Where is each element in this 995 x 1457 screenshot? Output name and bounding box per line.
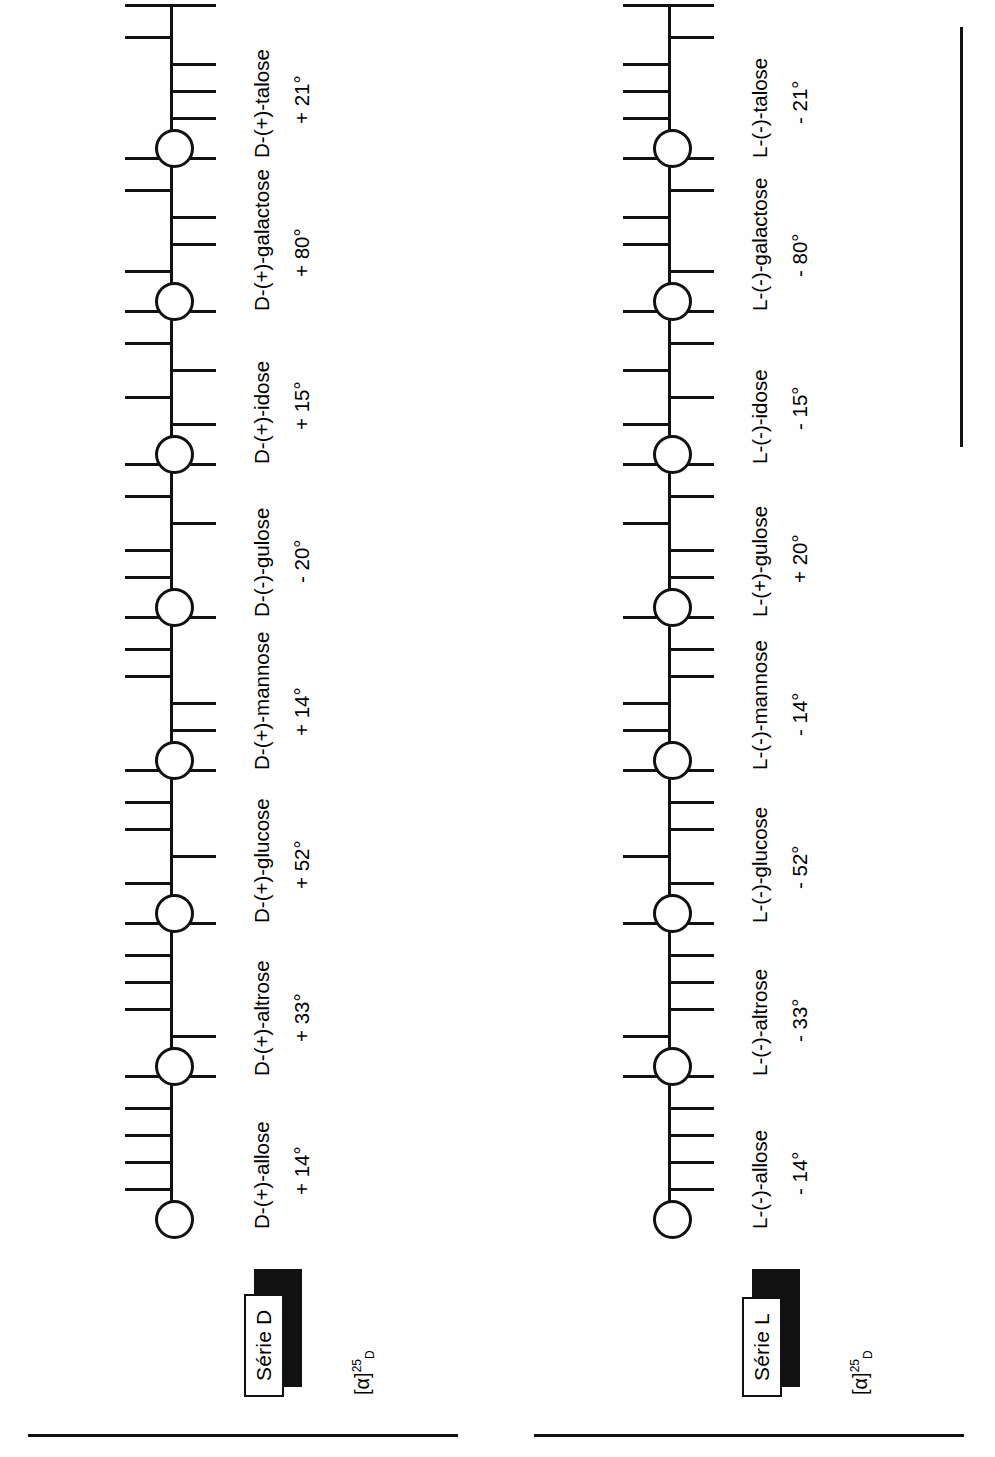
sugar-name: D-(+)-mannose	[250, 632, 274, 770]
sugar-name: L-(+)-gulose	[748, 506, 772, 617]
aldehyde-circle	[155, 741, 194, 780]
carbon-backbone	[668, 1075, 671, 1215]
hydroxyl-bond	[125, 648, 171, 651]
hydroxyl-bond	[623, 243, 669, 246]
optical-rotation-value: + 52°	[290, 840, 314, 889]
hydroxyl-bond	[125, 189, 171, 192]
optical-rotation-value: - 14°	[788, 692, 812, 736]
rotated-canvas: Série D[α]25DD-(+)-allose+ 14°D-(+)-altr…	[0, 0, 995, 1457]
fischer-projection	[594, 908, 744, 1076]
series-badge: Série L	[742, 1297, 782, 1397]
carbon-backbone	[170, 310, 173, 450]
hydroxyl-bond	[668, 1161, 714, 1164]
sugar-name: L-(-)-mannose	[748, 640, 772, 770]
sugar-name: D-(-)-gulose	[250, 508, 274, 617]
hydroxyl-bond	[170, 855, 216, 858]
sugar-label-group: D-(+)-idose+ 15°	[250, 296, 480, 464]
aldehyde-circle	[155, 1200, 194, 1239]
hydroxyl-bond	[623, 522, 669, 525]
sugar-structure: D-(+)-allose+ 14°	[0, 1061, 497, 1229]
sugar-label-group: L-(+)-gulose+ 20°	[748, 449, 978, 617]
hydroxyl-bond	[668, 495, 714, 498]
carbon-backbone	[170, 157, 173, 297]
sugar-structure: D-(-)-gulose- 20°	[0, 449, 497, 617]
optical-rotation-value: + 14°	[290, 687, 314, 736]
fischer-projection	[96, 1061, 246, 1229]
hydroxyl-bond	[125, 1008, 171, 1011]
hydroxyl-bond	[668, 828, 714, 831]
sugar-label-group: L-(-)-talose- 21°	[748, 0, 978, 158]
aldehyde-circle	[653, 741, 692, 780]
fischer-projection	[594, 143, 744, 311]
aldehyde-circle	[155, 435, 194, 474]
hydroxyl-bond	[125, 549, 171, 552]
sugar-name: D-(+)-altrose	[250, 960, 274, 1076]
figure-page: Série D[α]25DD-(+)-allose+ 14°D-(+)-altr…	[0, 0, 995, 1457]
carbon-backbone	[668, 4, 671, 144]
hydroxyl-bond	[623, 1035, 669, 1038]
hydroxyl-bond	[668, 801, 714, 804]
hydroxyl-bond	[668, 648, 714, 651]
hydroxyl-bond	[125, 396, 171, 399]
carbon-backbone	[170, 616, 173, 756]
sugar-structure: D-(+)-galactose+ 80°	[0, 143, 497, 311]
hydroxyl-bond	[125, 981, 171, 984]
aldehyde-circle	[653, 129, 692, 168]
aldehyde-circle	[155, 1047, 194, 1086]
sugar-label-group: L-(-)-mannose- 14°	[748, 602, 978, 770]
fischer-projection	[594, 0, 744, 158]
fischer-projection	[96, 296, 246, 464]
aldehyde-circle	[653, 1047, 692, 1086]
optical-rotation-value: - 20°	[290, 539, 314, 583]
hydroxyl-bond	[668, 1107, 714, 1110]
sugar-label-group: D-(+)-allose+ 14°	[250, 1061, 480, 1229]
optical-rotation-value: + 20°	[788, 534, 812, 583]
hydroxyl-bond	[125, 1134, 171, 1137]
aldehyde-circle	[653, 435, 692, 474]
sugar-structure: D-(+)-mannose+ 14°	[0, 602, 497, 770]
hydroxyl-bond	[125, 675, 171, 678]
hydroxyl-bond	[668, 981, 714, 984]
hydroxyl-bond	[170, 216, 216, 219]
sugar-structure: D-(+)-altrose+ 33°	[0, 908, 497, 1076]
hydroxyl-bond	[170, 1035, 216, 1038]
fischer-projection	[96, 755, 246, 923]
hydroxyl-bond	[170, 729, 216, 732]
aldehyde-circle	[155, 129, 194, 168]
hydroxyl-bond	[623, 117, 669, 120]
sugar-structure: L-(+)-gulose+ 20°	[498, 449, 995, 617]
hydroxyl-bond	[170, 369, 216, 372]
sugar-name: L-(-)-altrose	[748, 969, 772, 1076]
hydroxyl-bond	[668, 549, 714, 552]
carbon-backbone	[170, 1075, 173, 1215]
specific-rotation-symbol: [α]25D	[350, 1350, 377, 1395]
optical-rotation-value: - 80°	[788, 233, 812, 277]
aldehyde-circle	[653, 588, 692, 627]
hydroxyl-bond	[668, 396, 714, 399]
sugar-structure: D-(+)-talose+ 21°	[0, 0, 497, 158]
hydroxyl-bond	[623, 63, 669, 66]
hydroxyl-bond	[125, 36, 171, 39]
optical-rotation-value: + 14°	[290, 1146, 314, 1195]
series-d: Série D[α]25DD-(+)-allose+ 14°D-(+)-altr…	[0, 0, 497, 1457]
sugar-name: L-(-)-galactose	[748, 178, 772, 311]
sugar-label-group: L-(-)-altrose- 33°	[748, 908, 978, 1076]
specific-rotation-symbol: [α]25D	[848, 1350, 875, 1395]
carbon-backbone	[668, 769, 671, 909]
hydroxyl-bond	[125, 1188, 171, 1191]
hydroxyl-bond	[668, 675, 714, 678]
sugar-label-group: L-(-)-galactose- 80°	[748, 143, 978, 311]
hydroxyl-bond	[668, 342, 714, 345]
sugar-label-group: D-(+)-talose+ 21°	[250, 0, 480, 158]
optical-rotation-value: + 33°	[290, 993, 314, 1042]
hydroxyl-bond	[668, 882, 714, 885]
hydroxyl-bond	[623, 702, 669, 705]
hydroxyl-bond	[623, 729, 669, 732]
hydroxyl-bond	[668, 954, 714, 957]
series-l: Série L[α]25DL-(-)-allose- 14°L-(-)-altr…	[498, 0, 995, 1457]
hydroxyl-bond	[170, 117, 216, 120]
fischer-projection	[96, 0, 246, 158]
fischer-projection	[594, 449, 744, 617]
hydroxyl-bond	[125, 576, 171, 579]
hydroxyl-bond	[668, 36, 714, 39]
